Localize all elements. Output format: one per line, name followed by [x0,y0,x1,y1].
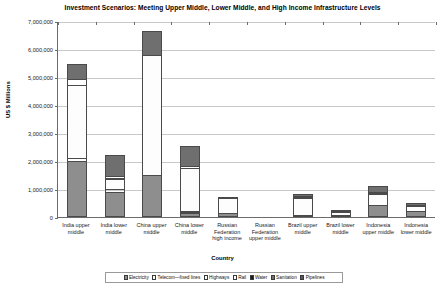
bar-segment-sanitation[interactable] [67,64,87,80]
bar-slot [397,22,435,217]
legend-swatch-icon [250,275,254,279]
y-tick-label: 7,000,000 [28,19,53,25]
x-tick-mark [209,22,210,25]
stacked-bar[interactable] [218,197,238,217]
legend-item-pipelines[interactable]: Pipelines [300,275,324,280]
legend-label: Sanitation [276,275,297,280]
bar-slot [247,22,285,217]
bar-group [58,22,435,217]
legend-item-rail[interactable]: Rail [233,275,246,280]
x-tick-mark [171,22,172,25]
bar-slot [133,22,171,217]
bar-slot [96,22,134,217]
x-tick-mark [134,22,135,25]
bar-segment-sanitation[interactable] [142,31,162,56]
x-tick-label-6: Brazil upper middle [284,222,322,242]
bar-segment-electricity[interactable] [142,175,162,217]
x-tick-mark [323,22,324,25]
bar-segment-highways[interactable] [293,198,313,215]
x-tick-mark [360,22,361,25]
bar-segment-electricity[interactable] [406,211,426,217]
y-tick-label: 6,000,000 [28,47,53,53]
bar-segment-sanitation[interactable] [105,155,125,177]
legend-item-sanitation[interactable]: Sanitation [271,275,297,280]
bar-segment-highways[interactable] [105,179,125,190]
bar-segment-electricity[interactable] [368,205,388,217]
bar-segment-electricity[interactable] [331,215,351,217]
bar-segment-sanitation[interactable] [180,146,200,167]
bar-segment-electricity[interactable] [218,213,238,217]
legend-swatch-icon [152,275,156,279]
legend-swatch-icon [300,275,304,279]
legend-swatch-icon [204,275,208,279]
x-tick-label-1: India lower middle [95,222,133,242]
bar-segment-electricity[interactable] [293,215,313,217]
bar-segment-highways[interactable] [142,55,162,175]
bar-slot [58,22,96,217]
x-tick-label-5: Russian Federation upper middle [246,222,284,242]
y-tick-mark [55,218,58,219]
x-tick-label-9: Indonesia lower middle [397,222,435,242]
legend-swatch-icon [271,275,275,279]
bar-slot [360,22,398,217]
x-axis-title: Country [0,255,445,261]
legend-label: Pipelines [306,275,325,280]
y-tick-label: 1,000,000 [28,187,53,193]
bar-segment-highways[interactable] [180,168,200,212]
bar-segment-highways[interactable] [67,85,87,159]
legend-item-water[interactable]: Water [250,275,268,280]
bar-segment-highways[interactable] [218,198,238,214]
x-tick-mark [285,22,286,25]
chart-legend: ElectricityTelecom—fixed linesHighwaysRa… [105,272,343,283]
legend-swatch-icon [233,275,237,279]
y-tick-label: 5,000,000 [28,75,53,81]
stacked-bar[interactable] [293,195,313,217]
bar-segment-electricity[interactable] [67,161,87,217]
legend-item-electricity[interactable]: Electricity [124,275,149,280]
x-tick-label-0: India upper middle [57,222,95,242]
x-axis-labels: India upper middleIndia lower middleChin… [57,222,435,242]
x-tick-label-2: China upper middle [133,222,171,242]
chart-title: Investment Scenarios: Meeting Upper Midd… [0,4,445,11]
stacked-bar[interactable] [331,211,351,217]
legend-item-highways[interactable]: Highways [204,275,230,280]
bar-slot [209,22,247,217]
stacked-bar[interactable] [368,187,388,217]
x-tick-label-7: Brazil lower middle [322,222,360,242]
bar-slot [284,22,322,217]
legend-item-telecom-fixed-lines[interactable]: Telecom—fixed lines [152,275,200,280]
legend-label: Electricity [129,275,149,280]
x-tick-mark [436,22,437,25]
x-tick-label-4: Russian Federation high income [208,222,246,242]
bar-segment-electricity[interactable] [105,192,125,217]
legend-label: Rail [238,275,246,280]
x-tick-mark [58,22,59,25]
bar-slot [171,22,209,217]
x-tick-mark [398,22,399,25]
y-axis-title: US $ Millions [5,81,11,118]
y-tick-label: 2,000,000 [28,159,53,165]
bar-segment-electricity[interactable] [180,213,200,217]
y-tick-label: 4,000,000 [28,103,53,109]
bar-segment-highways[interactable] [368,194,388,206]
stacked-bar[interactable] [105,156,125,217]
legend-swatch-icon [124,275,128,279]
stacked-bar[interactable] [406,203,426,217]
stacked-bar[interactable] [180,146,200,217]
stacked-bar[interactable] [142,31,162,217]
legend-label: Water [255,275,267,280]
x-tick-label-8: Indonesia upper middle [359,222,397,242]
y-tick-label: 0 [50,215,53,221]
y-tick-label: 3,000,000 [28,131,53,137]
legend-label: Telecom—fixed lines [158,275,201,280]
stacked-bar[interactable] [67,65,87,217]
plot-area: 7,000,0006,000,0005,000,0004,000,0003,00… [57,22,435,218]
bar-slot [322,22,360,217]
x-tick-mark [247,22,248,25]
x-tick-mark [96,22,97,25]
x-tick-label-3: China lower middle [170,222,208,242]
chart-container: Investment Scenarios: Meeting Upper Midd… [0,0,445,295]
legend-label: Highways [209,275,229,280]
